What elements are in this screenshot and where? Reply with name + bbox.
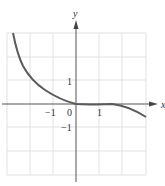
origin-label: 0 bbox=[67, 107, 72, 118]
y-axis bbox=[74, 20, 79, 182]
y-axis-label: y bbox=[72, 8, 78, 19]
chart-canvas: y x 0 −1 1 1 −1 bbox=[0, 0, 165, 186]
x-axis-label: x bbox=[160, 99, 165, 110]
x-tick-label-neg1: −1 bbox=[45, 107, 56, 118]
y-tick-label-neg1: −1 bbox=[61, 122, 72, 133]
x-tick-label-1: 1 bbox=[97, 107, 102, 118]
x-axis-arrow-icon bbox=[149, 102, 158, 107]
y-axis-arrow-icon bbox=[74, 20, 79, 29]
y-tick-label-1: 1 bbox=[67, 76, 72, 87]
